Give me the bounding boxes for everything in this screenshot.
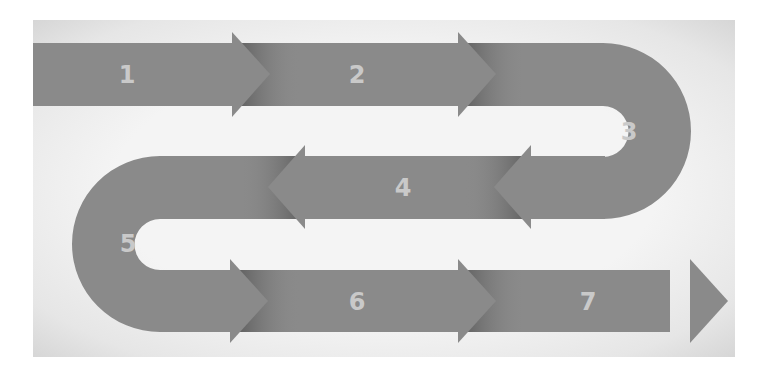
arrow-head-7 [690, 259, 728, 343]
step-label-4: 4 [395, 174, 412, 202]
step-label-3: 3 [621, 118, 638, 146]
step-label-5: 5 [120, 230, 137, 258]
step-label-7: 7 [580, 288, 597, 316]
step-label-2: 2 [349, 61, 366, 89]
step-label-6: 6 [349, 288, 366, 316]
step-label-1: 1 [119, 61, 136, 89]
process-diagram: 1 2 3 4 5 6 7 [0, 0, 770, 369]
